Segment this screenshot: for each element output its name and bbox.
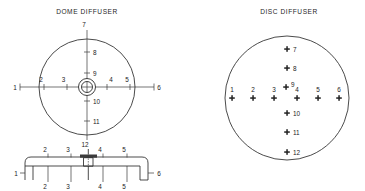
dome-point-label-2: 2 <box>39 76 43 83</box>
disc-marker-1 <box>229 95 235 101</box>
dome-profile-stem-block <box>80 155 97 158</box>
disc-marker-6 <box>336 95 342 101</box>
disc-point-label-4: 4 <box>295 86 299 93</box>
disc-marker-8 <box>284 65 290 71</box>
dome-point-label-1: 1 <box>13 84 17 91</box>
diagram-canvas: DOME DIFFUSER <box>0 0 365 191</box>
disc-marker-4 <box>294 95 300 101</box>
disc-marker-12 <box>284 149 290 155</box>
disc-point-label-11: 11 <box>293 129 300 136</box>
disc-point-label-8: 8 <box>293 65 297 72</box>
disc-marker-10 <box>284 110 290 116</box>
disc-outer-circle <box>225 36 349 160</box>
dome-point-label-3: 3 <box>62 76 66 83</box>
disc-marker-11 <box>284 129 290 135</box>
dome-diffuser-title: DOME DIFFUSER <box>56 8 118 15</box>
profile-end-label-6: 6 <box>157 170 161 177</box>
profile-bottom-label-2: 2 <box>43 183 47 190</box>
profile-bottom-label-3: 3 <box>66 183 70 190</box>
dome-point-label-7: 7 <box>82 21 86 28</box>
disc-point-label-7: 7 <box>293 46 297 53</box>
dome-point-label-4: 4 <box>109 76 113 83</box>
disc-point-label-5: 5 <box>316 86 320 93</box>
dome-profile-view: 2 3 4 5 2 3 4 5 1 6 <box>14 146 161 190</box>
profile-top-label-2: 2 <box>43 146 47 153</box>
disc-point-label-1: 1 <box>230 86 234 93</box>
diffuser-diagram-figure: DOME DIFFUSER <box>0 0 365 191</box>
disc-marker-3 <box>271 95 277 101</box>
dome-point-label-5: 5 <box>125 76 129 83</box>
profile-bottom-label-4: 4 <box>98 183 102 190</box>
disc-point-label-3: 3 <box>272 86 276 93</box>
dome-point-label-10: 10 <box>93 98 101 105</box>
disc-point-label-9: 9 <box>291 81 295 88</box>
disc-marker-9 <box>283 84 289 90</box>
dome-point-label-12: 12 <box>81 141 89 148</box>
dome-point-label-6: 6 <box>157 84 161 91</box>
profile-end-label-1: 1 <box>14 170 18 177</box>
disc-point-label-2: 2 <box>251 86 255 93</box>
disc-marker-7 <box>284 46 290 52</box>
profile-top-label-3: 3 <box>66 146 70 153</box>
profile-top-label-4: 4 <box>98 146 102 153</box>
disc-point-label-10: 10 <box>293 110 301 117</box>
disc-marker-5 <box>315 95 321 101</box>
dome-point-label-8: 8 <box>93 49 97 56</box>
profile-top-label-5: 5 <box>122 146 126 153</box>
disc-point-label-6: 6 <box>337 86 341 93</box>
disc-diffuser-title: DISC DIFFUSER <box>260 8 318 15</box>
dome-point-label-11: 11 <box>93 118 100 125</box>
dome-point-label-9: 9 <box>93 70 97 77</box>
disc-marker-2 <box>250 95 256 101</box>
profile-bottom-label-5: 5 <box>122 183 126 190</box>
disc-plan-view: 1 2 3 4 5 6 7 8 9 10 11 12 <box>225 36 349 160</box>
dome-plan-view: 1 2 3 4 5 6 7 8 9 10 11 12 <box>13 21 161 148</box>
disc-point-label-12: 12 <box>293 149 301 156</box>
dome-profile-outline <box>25 157 148 180</box>
